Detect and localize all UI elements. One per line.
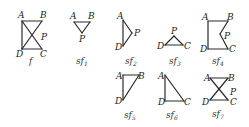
vertex-label-B: B — [227, 73, 235, 83]
edge-BP — [82, 22, 90, 33]
vertex-label-C: C — [184, 97, 191, 107]
vertex-label-A: A — [17, 10, 25, 20]
figure-sf6: ADCsf6 — [157, 71, 191, 121]
vertex-label-P: P — [170, 26, 178, 36]
vertex-label-D: D — [15, 49, 23, 59]
vertex-label-D: D — [114, 96, 122, 106]
figure-sf1: ABPsf1 — [69, 11, 95, 67]
figure-sf5: ABDsf5 — [114, 71, 145, 121]
vertex-label-P: P — [223, 31, 231, 41]
figure-caption: sf2 — [125, 56, 137, 67]
vertex-label-C: C — [40, 49, 47, 59]
vertex-label-B: B — [87, 11, 95, 21]
vertex-label-D: D — [114, 42, 122, 52]
figure-sf4: ABPDCsf4 — [199, 12, 236, 67]
vertex-label-P: P — [40, 32, 48, 42]
vertex-label-A: A — [201, 12, 209, 22]
vertex-label-C: C — [229, 44, 236, 54]
vertex-label-A: A — [115, 71, 123, 81]
edge-AP — [123, 20, 132, 33]
vertex-label-P: P — [78, 34, 86, 44]
figure-caption: sf3 — [169, 56, 181, 67]
figure-caption: sf5 — [124, 110, 136, 121]
vertex-label-D: D — [157, 97, 165, 107]
figure-caption: sf6 — [166, 110, 178, 121]
figure-sf2: ADPsf2 — [114, 11, 141, 67]
edge-AC — [165, 75, 184, 101]
figure-caption: sf1 — [76, 56, 88, 67]
vertex-label-P: P — [133, 28, 141, 38]
vertex-label-C: C — [184, 41, 191, 51]
figure-caption: sf4 — [212, 56, 224, 67]
vertex-label-A: A — [116, 11, 124, 21]
edge-DP — [123, 33, 132, 46]
vertex-label-A: A — [69, 11, 77, 21]
figure-caption: sf7 — [212, 109, 224, 120]
vertex-label-B: B — [39, 10, 47, 20]
vertex-label-D: D — [156, 41, 164, 51]
graph-subgraph-diagram: ABPDCfABPsf1ADPsf2PDCsf3ABPDCsf4ABDsf5AD… — [0, 0, 249, 127]
figure-sf7: ABPDCsf7 — [201, 73, 237, 120]
edge-BD — [123, 75, 139, 100]
vertex-label-C: C — [230, 97, 237, 107]
figure-f: ABPDCf — [15, 10, 48, 66]
vertex-label-B: B — [137, 71, 145, 81]
vertex-label-D: D — [199, 44, 207, 54]
vertex-label-P: P — [229, 87, 237, 97]
vertex-label-D: D — [201, 97, 209, 107]
edge-AP — [74, 22, 82, 33]
figure-caption: f — [28, 56, 34, 66]
figure-sf3: PDCsf3 — [156, 26, 191, 67]
vertex-label-A: A — [157, 71, 165, 81]
edge-PC — [174, 36, 183, 45]
vertex-label-B: B — [226, 12, 234, 22]
vertex-label-A: A — [203, 73, 211, 83]
edge-PD — [165, 36, 174, 45]
